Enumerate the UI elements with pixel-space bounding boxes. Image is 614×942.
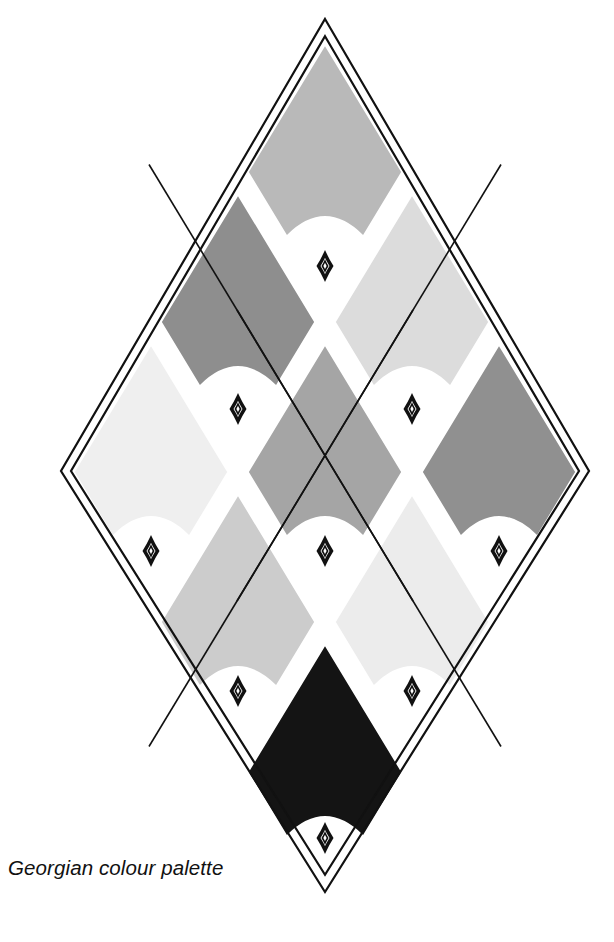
georgian-colour-palette-diagram [0,0,614,942]
figure-caption: Georgian colour palette [8,856,408,881]
figure-root: Georgian colour palette [0,0,614,942]
